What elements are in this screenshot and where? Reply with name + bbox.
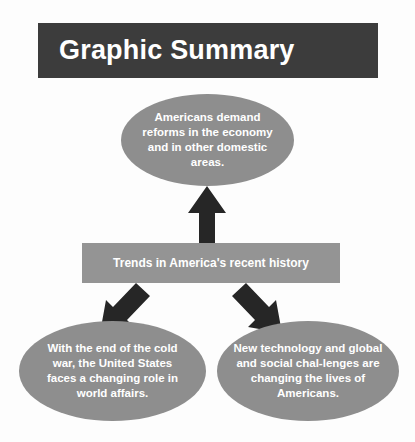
page-title-bar: Graphic Summary (38, 23, 378, 78)
arrow-up-icon (186, 186, 228, 244)
node-bottom-right-ellipse-label: New technology and global and social cha… (233, 341, 383, 402)
node-bottom-left-ellipse: With the end of the cold war, the United… (19, 321, 206, 421)
node-center-box-label: Trends in America's recent history (113, 256, 309, 270)
node-top-ellipse: Americans demand reforms in the economy … (121, 94, 294, 186)
node-top-ellipse-label: Americans demand reforms in the economy … (142, 110, 274, 171)
page-title: Graphic Summary (59, 37, 295, 64)
node-bottom-right-ellipse: New technology and global and social cha… (217, 321, 399, 421)
node-bottom-left-ellipse-label: With the end of the cold war, the United… (38, 341, 188, 402)
node-center-box: Trends in America's recent history (82, 243, 340, 283)
graphic-summary-figure: Graphic Summary Americans demand reforms… (0, 0, 415, 442)
